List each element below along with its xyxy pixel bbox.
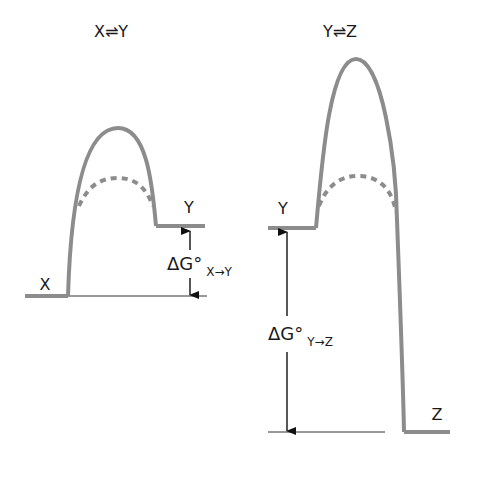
state-x-label: X [40,275,51,294]
state-z-label: Z [432,405,443,424]
uncatalyzed-barrier-curve-right [316,59,404,432]
state-y-label-left: Y [183,198,194,217]
right-reaction-profile [268,59,450,432]
delta-g-symbol-left: ΔG° [167,253,202,274]
delta-g-label-left: ΔG°X→Y [167,253,233,279]
energy-diagram: X⇌Y Y⇌Z X Y ΔG°X→Y Y Z ΔG°Y→Z [0,0,477,482]
delta-g-subscript-right: Y→Z [306,335,333,349]
catalyzed-barrier-curve [79,178,153,206]
delta-g-subscript-left: X→Y [206,265,232,279]
uncatalyzed-barrier-curve [68,128,156,296]
state-y-label-right: Y [277,199,288,218]
title-left: X⇌Y [94,22,128,41]
delta-g-symbol-right: ΔG° [268,323,303,344]
catalyzed-barrier-curve-right [319,176,396,212]
delta-g-label-right: ΔG°Y→Z [268,323,333,349]
title-right: Y⇌Z [322,22,357,41]
